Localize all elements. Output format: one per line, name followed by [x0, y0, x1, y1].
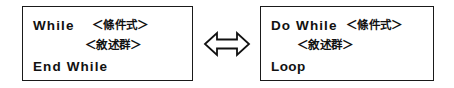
end-while-keyword: End While: [33, 60, 108, 74]
loop-keyword: Loop: [271, 60, 306, 74]
do-while-condition-placeholder: ＜條件式＞: [346, 20, 403, 32]
do-while-keyword: Do While: [271, 19, 338, 33]
while-condition-placeholder: ＜條件式＞: [92, 20, 149, 32]
while-loop-box: While ＜條件式＞ ＜敘述群＞ End While: [22, 6, 193, 81]
double-headed-arrow-icon: [203, 29, 251, 59]
do-while-loop-box: Do While ＜條件式＞ ＜敘述群＞ Loop: [260, 6, 434, 81]
loop-equivalence-diagram: While ＜條件式＞ ＜敘述群＞ End While Do While ＜條件…: [0, 0, 454, 88]
while-statements-placeholder: ＜敘述群＞: [85, 40, 142, 52]
do-while-statements-placeholder: ＜敘述群＞: [297, 40, 354, 52]
while-keyword: While: [33, 19, 75, 33]
